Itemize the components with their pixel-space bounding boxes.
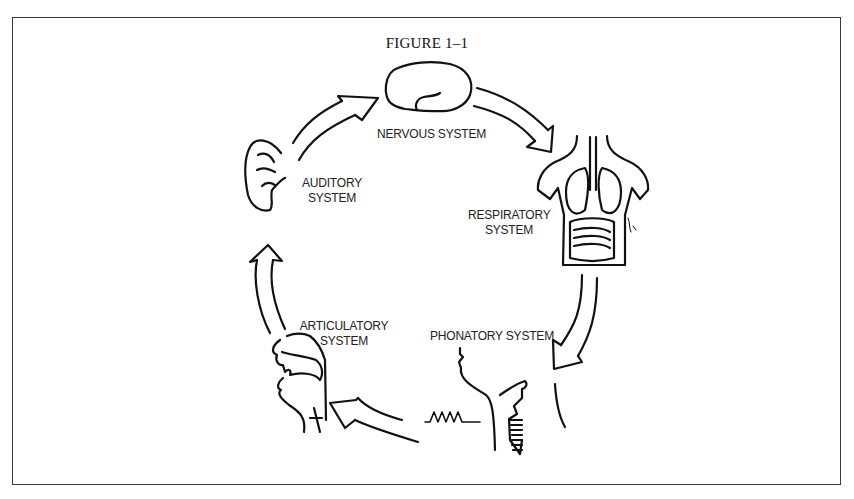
auditory-label-line2: SYSTEM: [296, 191, 368, 206]
arrow-phonatory-to-articulatory-icon: [330, 398, 418, 442]
sound-wave-icon: [425, 412, 480, 422]
arrow-respiratory-to-phonatory-icon: [553, 275, 597, 369]
nervous-system-label: NERVOUS SYSTEM: [377, 127, 517, 142]
brain-icon: [386, 62, 472, 111]
auditory-label-line1: AUDITORY: [296, 176, 368, 191]
signature-mark: [628, 218, 636, 232]
auditory-system-label: AUDITORY SYSTEM: [296, 176, 368, 206]
torso-lungs-icon: [538, 136, 648, 265]
ear-icon: [245, 140, 285, 210]
respiratory-label-line1: RESPIRATORY: [468, 208, 550, 223]
phonatory-system-label: PHONATORY SYSTEM: [430, 329, 560, 344]
larynx-icon: [459, 348, 565, 454]
arrow-articulatory-to-auditory-icon: [250, 245, 285, 333]
arrow-nervous-to-respiratory-icon: [474, 88, 553, 152]
arrow-auditory-to-nervous-icon: [293, 96, 378, 160]
articulatory-label-line1: ARTICULATORY: [298, 319, 390, 334]
articulatory-label-line2: SYSTEM: [298, 334, 390, 349]
respiratory-system-label: RESPIRATORY SYSTEM: [468, 208, 550, 238]
articulatory-system-label: ARTICULATORY SYSTEM: [298, 319, 390, 349]
respiratory-label-line2: SYSTEM: [468, 223, 550, 238]
speech-cycle-diagram: [0, 0, 854, 499]
